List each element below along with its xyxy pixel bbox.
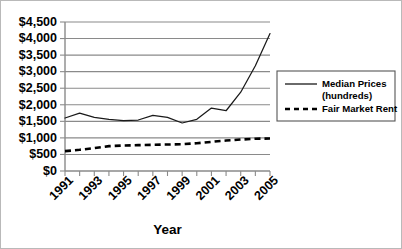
y-axis-label: $1,500 bbox=[19, 114, 57, 128]
legend-label-median-prices: Median Prices bbox=[322, 78, 387, 89]
y-axis-label: $2,000 bbox=[19, 98, 57, 112]
y-axis-label: $2,500 bbox=[19, 81, 57, 95]
y-axis-label: $0 bbox=[43, 164, 57, 178]
legend-label-fair-market-rent: Fair Market Rent bbox=[322, 103, 398, 114]
x-axis-label: 2001 bbox=[193, 173, 223, 203]
y-axis-label: $3,000 bbox=[19, 64, 57, 78]
y-axis-label: $500 bbox=[29, 147, 57, 161]
x-axis-label: 1995 bbox=[105, 173, 135, 203]
y-axis-label: $3,500 bbox=[19, 48, 57, 62]
line-chart: $0$500$1,000$1,500$2,000$2,500$3,000$3,5… bbox=[1, 1, 402, 249]
legend-label-median-prices-line2: (hundreds) bbox=[322, 90, 372, 101]
x-axis-label: 1993 bbox=[76, 173, 106, 203]
series-line-1 bbox=[65, 34, 270, 123]
y-axis-label: $4,000 bbox=[19, 31, 57, 45]
y-axis-label: $1,000 bbox=[19, 131, 57, 145]
x-axis-label: 1997 bbox=[134, 173, 164, 203]
x-axis-title: Year bbox=[153, 222, 182, 237]
x-axis-label: 2003 bbox=[222, 173, 252, 203]
chart-container: $0$500$1,000$1,500$2,000$2,500$3,000$3,5… bbox=[0, 0, 402, 249]
series-line-2 bbox=[65, 139, 270, 152]
x-axis-label: 2005 bbox=[252, 173, 282, 203]
y-axis-label: $4,500 bbox=[19, 15, 57, 29]
x-axis-label: 1999 bbox=[164, 173, 194, 203]
